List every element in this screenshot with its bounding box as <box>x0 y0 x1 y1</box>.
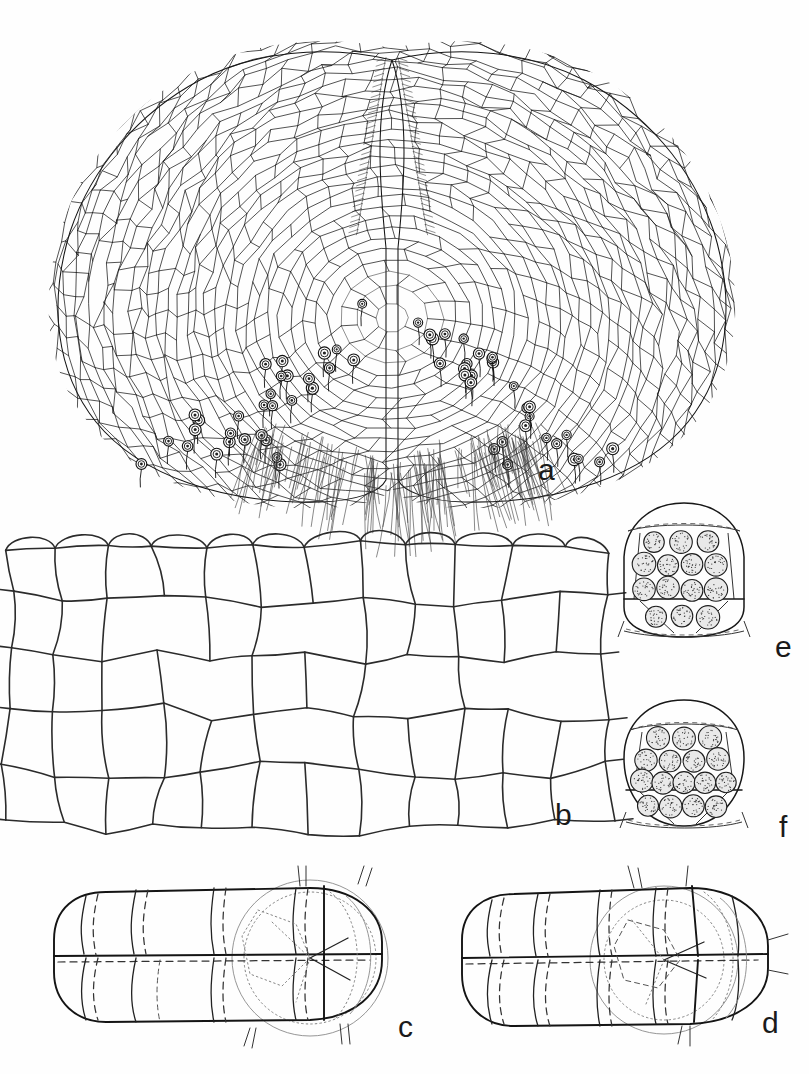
panel-a-gametophyte <box>22 18 762 508</box>
figure-plate: a b <box>0 0 809 1074</box>
panel-label-a: a <box>538 455 555 485</box>
panel-b-cell-detail <box>8 520 608 845</box>
panel-c-embryo <box>10 862 430 1052</box>
panel-e-sporangium <box>604 495 764 645</box>
panel-label-c: c <box>398 1012 413 1042</box>
panel-label-e: e <box>775 632 792 662</box>
panel-f-sporangium <box>604 690 764 840</box>
panel-label-f: f <box>779 812 787 842</box>
panel-d-embryo <box>432 862 802 1052</box>
panel-label-b: b <box>555 800 572 830</box>
panel-label-d: d <box>762 1008 779 1038</box>
